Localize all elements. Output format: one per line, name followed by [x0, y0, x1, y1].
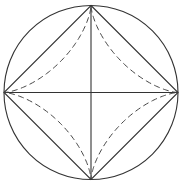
geometry-diagram [0, 0, 179, 193]
